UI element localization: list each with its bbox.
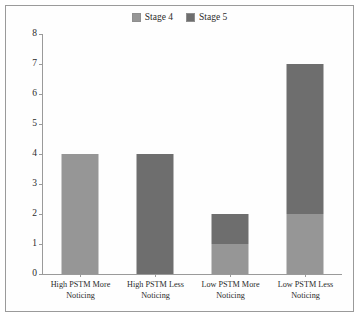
y-tick-5: 5 bbox=[20, 124, 42, 125]
x-axis-label: High PSTM Less Noticing bbox=[118, 279, 193, 301]
y-tick-mark bbox=[39, 274, 42, 275]
chart-legend: Stage 4 Stage 5 bbox=[6, 13, 353, 22]
legend-entry-stage-5: Stage 5 bbox=[186, 13, 227, 22]
bar-segment-stage-5[interactable] bbox=[211, 214, 248, 244]
bar-segment-stage-4[interactable] bbox=[211, 244, 248, 274]
x-tick-mark bbox=[155, 274, 156, 277]
y-tick-6: 6 bbox=[20, 94, 42, 95]
y-tick-label: 6 bbox=[32, 88, 37, 99]
y-tick-label: 5 bbox=[32, 118, 37, 129]
legend-label-stage-5: Stage 5 bbox=[199, 13, 227, 22]
bar-segment-stage-5[interactable] bbox=[137, 154, 174, 274]
legend-label-stage-4: Stage 4 bbox=[145, 13, 173, 22]
y-tick-label: 1 bbox=[32, 238, 37, 249]
bar-segment-stage-4[interactable] bbox=[62, 154, 99, 274]
bar-group bbox=[43, 34, 342, 274]
y-tick-label: 8 bbox=[32, 28, 37, 39]
bar-slot bbox=[267, 34, 342, 274]
legend-swatch-stage-5 bbox=[186, 13, 195, 22]
y-tick-label: 0 bbox=[32, 268, 37, 279]
x-axis-label: High PSTM More Noticing bbox=[43, 279, 118, 301]
bar-segment-stage-4[interactable] bbox=[286, 214, 323, 274]
y-tick-label: 4 bbox=[32, 148, 37, 159]
bar-slot bbox=[43, 34, 118, 274]
y-tick-label: 2 bbox=[32, 208, 37, 219]
bar-stack[interactable] bbox=[137, 154, 174, 274]
chart-frame: Stage 4 Stage 5 876543210 High PSTM More… bbox=[5, 5, 354, 312]
legend-entry-stage-4: Stage 4 bbox=[132, 13, 173, 22]
y-tick-mark bbox=[39, 124, 42, 125]
x-axis-label: Low PSTM Less Noticing bbox=[268, 279, 343, 301]
x-axis-line bbox=[42, 274, 342, 275]
y-tick-7: 7 bbox=[20, 64, 42, 65]
x-tick-mark bbox=[230, 274, 231, 277]
y-tick-8: 8 bbox=[20, 34, 42, 35]
y-tick-0: 0 bbox=[20, 274, 42, 275]
y-tick-mark bbox=[39, 184, 42, 185]
y-tick-3: 3 bbox=[20, 184, 42, 185]
bar-stack[interactable] bbox=[62, 154, 99, 274]
x-tick-mark bbox=[305, 274, 306, 277]
y-tick-mark bbox=[39, 244, 42, 245]
y-tick-4: 4 bbox=[20, 154, 42, 155]
bar-stack[interactable] bbox=[286, 64, 323, 274]
y-tick-mark bbox=[39, 214, 42, 215]
y-tick-1: 1 bbox=[20, 244, 42, 245]
y-tick-mark bbox=[39, 94, 42, 95]
x-axis-label: Low PSTM More Noticing bbox=[193, 279, 268, 301]
x-tick-mark bbox=[80, 274, 81, 277]
plot-area: 876543210 bbox=[42, 34, 342, 275]
y-tick-mark bbox=[39, 154, 42, 155]
x-axis-labels: High PSTM More NoticingHigh PSTM Less No… bbox=[43, 279, 343, 301]
bar-slot bbox=[193, 34, 268, 274]
legend-swatch-stage-4 bbox=[132, 13, 141, 22]
y-tick-2: 2 bbox=[20, 214, 42, 215]
bar-segment-stage-5[interactable] bbox=[286, 64, 323, 214]
bar-stack[interactable] bbox=[211, 214, 248, 274]
y-tick-label: 7 bbox=[32, 58, 37, 69]
y-tick-label: 3 bbox=[32, 178, 37, 189]
y-tick-mark bbox=[39, 34, 42, 35]
y-tick-mark bbox=[39, 64, 42, 65]
bar-slot bbox=[118, 34, 193, 274]
